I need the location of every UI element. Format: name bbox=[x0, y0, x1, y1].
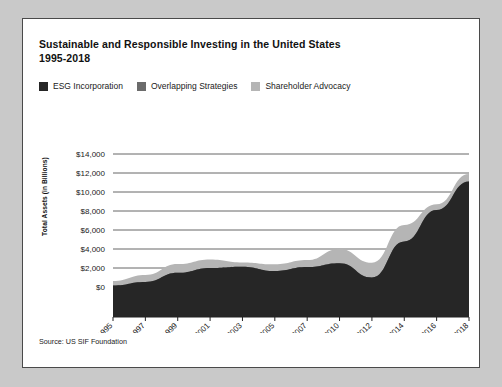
svg-text:1995: 1995 bbox=[95, 321, 114, 333]
svg-text:$0: $0 bbox=[96, 283, 105, 292]
stacked-area-chart: $14,000$12,000$10,000$8,000$6,000$4,000$… bbox=[23, 111, 479, 333]
svg-text:2007: 2007 bbox=[290, 321, 309, 333]
page-title: Sustainable and Responsible Investing in… bbox=[39, 37, 459, 51]
svg-text:$2,000: $2,000 bbox=[81, 264, 106, 273]
legend-item-label: Overlapping Strategies bbox=[151, 81, 237, 91]
plot-area: $14,000$12,000$10,000$8,000$6,000$4,000$… bbox=[23, 111, 479, 333]
source-note: Source: US SIF Foundation bbox=[39, 337, 127, 346]
svg-text:2018: 2018 bbox=[451, 321, 470, 333]
title-block: Sustainable and Responsible Investing in… bbox=[39, 37, 459, 65]
svg-text:2005: 2005 bbox=[257, 321, 276, 333]
page-subtitle: 1995-2018 bbox=[39, 51, 459, 65]
svg-text:$14,000: $14,000 bbox=[76, 150, 105, 159]
chart-card: Sustainable and Responsible Investing in… bbox=[22, 18, 480, 368]
legend-swatch-icon bbox=[39, 82, 48, 91]
svg-text:$4,000: $4,000 bbox=[81, 245, 106, 254]
legend-swatch-icon bbox=[251, 82, 260, 91]
legend-item[interactable]: Overlapping Strategies bbox=[137, 81, 237, 91]
svg-text:2001: 2001 bbox=[193, 321, 212, 333]
svg-text:2016: 2016 bbox=[419, 321, 438, 333]
legend-swatch-icon bbox=[137, 82, 146, 91]
chart-legend: ESG Incorporation Overlapping Strategies… bbox=[39, 81, 350, 91]
svg-text:$8,000: $8,000 bbox=[81, 207, 106, 216]
svg-text:2010: 2010 bbox=[322, 321, 341, 333]
svg-text:1997: 1997 bbox=[128, 321, 147, 333]
svg-text:1999: 1999 bbox=[160, 321, 179, 333]
legend-item-label: ESG Incorporation bbox=[53, 81, 123, 91]
svg-text:$12,000: $12,000 bbox=[76, 169, 105, 178]
svg-text:2012: 2012 bbox=[354, 321, 373, 333]
svg-text:2014: 2014 bbox=[387, 321, 406, 333]
legend-item[interactable]: Shareholder Advocacy bbox=[251, 81, 350, 91]
legend-item-label: Shareholder Advocacy bbox=[265, 81, 350, 91]
svg-text:$10,000: $10,000 bbox=[76, 188, 105, 197]
svg-text:2003: 2003 bbox=[225, 321, 244, 333]
svg-text:$6,000: $6,000 bbox=[81, 226, 106, 235]
legend-item[interactable]: ESG Incorporation bbox=[39, 81, 123, 91]
